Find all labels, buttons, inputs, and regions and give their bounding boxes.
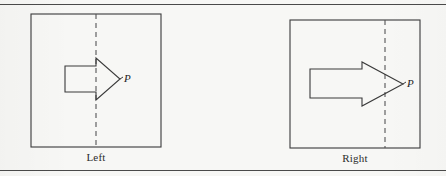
panel-right (290, 20, 420, 148)
figure-container: P P Left Right (0, 0, 446, 176)
figure-drawing (0, 0, 446, 176)
panel-left (31, 14, 161, 147)
panel-left-force-arrow (65, 58, 120, 100)
panel-right-force-label: P (407, 78, 414, 89)
panel-left-force-label: P (124, 73, 131, 84)
panel-right-force-leader (403, 82, 406, 84)
panel-right-force-arrow (310, 62, 403, 106)
panel-left-force-leader (120, 77, 123, 79)
panel-left-caption: Left (31, 152, 161, 163)
panel-right-caption: Right (290, 153, 420, 164)
